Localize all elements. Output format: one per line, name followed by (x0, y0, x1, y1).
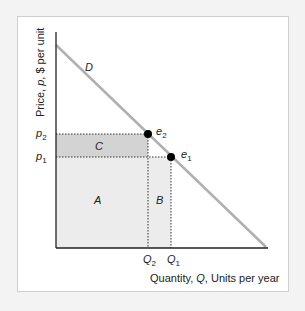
region-c-label: C (95, 140, 103, 152)
region-a-label: A (93, 194, 101, 206)
demand-label: D (85, 61, 93, 73)
e2-label: e2 (156, 125, 167, 140)
e1-label: e1 (181, 148, 192, 163)
chart-svg: Price, p, $ per unit Quantity, Q, Units … (0, 0, 305, 311)
y-tick-p1: p1 (35, 150, 47, 165)
y-axis-label: Price, p, $ per unit (34, 28, 46, 117)
point-e1 (167, 153, 175, 161)
y-tick-p2: p2 (35, 127, 47, 142)
region-b-label: B (156, 194, 163, 206)
x-tick-q1: Q1 (167, 253, 181, 268)
x-tick-q2: Q2 (143, 253, 157, 268)
region-ab (56, 157, 171, 248)
point-e2 (144, 130, 152, 138)
x-axis-label: Quantity, Q, Units per year (150, 272, 280, 284)
